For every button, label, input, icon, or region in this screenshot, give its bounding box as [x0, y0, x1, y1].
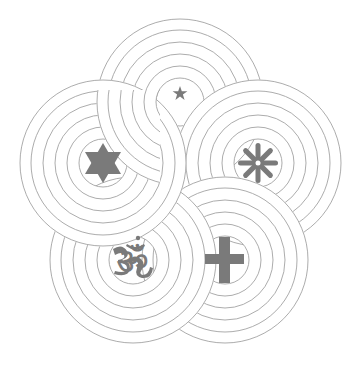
interfaith-emblem: ॐ — [0, 0, 360, 367]
interlaced-rings — [20, 19, 342, 344]
om-icon: ॐ — [113, 236, 153, 282]
wheel-icon — [238, 143, 278, 183]
